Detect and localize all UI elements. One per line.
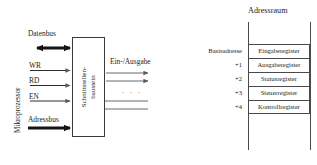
- register-row: Statusregister: [248, 72, 310, 86]
- interface-chip-box: Schnittstellen- baustein: [72, 37, 105, 137]
- address-offset: +1: [196, 58, 244, 72]
- addressbus-label: Adressbus: [28, 116, 59, 123]
- register-row: Steuerregister: [248, 86, 310, 100]
- register-name: Ausgaberegister: [258, 62, 301, 69]
- databus-label: Datenbus: [28, 30, 56, 37]
- address-offset-column: Basisadresse +1 +2 +3 +4: [196, 44, 244, 114]
- signal-label-wr: WR: [29, 62, 41, 69]
- address-register-table: Eingaberegister Ausgaberegister Statusre…: [248, 44, 310, 114]
- address-offset: +4: [196, 100, 244, 114]
- signal-label-rd: RD: [29, 77, 39, 84]
- interface-chip-label-line1: Schnittstellen-: [80, 67, 88, 107]
- register-name: Eingaberegister: [258, 48, 299, 55]
- interface-chip-label: Schnittstellen- baustein: [80, 67, 98, 107]
- register-row: Kontrollregister: [248, 100, 310, 114]
- io-ellipsis: . . .: [122, 86, 142, 95]
- interface-chip-label-line2: baustein: [89, 75, 97, 98]
- address-offset: Basisadresse: [196, 44, 244, 58]
- register-name: Statusregister: [261, 76, 297, 83]
- io-label: Ein-/Ausgabe: [110, 58, 151, 65]
- address-offset: +2: [196, 72, 244, 86]
- register-name: Kontrollregister: [258, 104, 300, 111]
- register-name: Steuerregister: [261, 90, 298, 97]
- signal-label-en: EN: [29, 93, 39, 100]
- address-space-title: Adressraum: [248, 7, 288, 15]
- diagram-canvas: Mikroprozessor Datenbus WR RD EN Adressb…: [0, 0, 317, 165]
- address-space-rail-right: [310, 22, 311, 150]
- microprocessor-label: Mikroprozessor: [15, 87, 22, 133]
- register-row: Ausgaberegister: [248, 58, 310, 72]
- address-offset: +3: [196, 86, 244, 100]
- register-row: Eingaberegister: [248, 44, 310, 58]
